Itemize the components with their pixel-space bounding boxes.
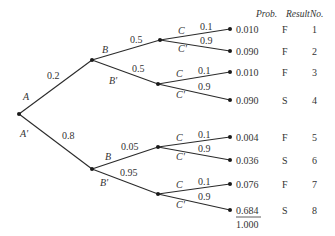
- prob-label: 0.9: [198, 81, 211, 92]
- result-value: F: [282, 179, 288, 190]
- node-level1: [90, 58, 94, 62]
- joint-prob: 0.090: [236, 46, 259, 57]
- tree-labels: A0.2A'0.8B0.5B'0.5B0.05B'0.95C0.1C'0.9C0…: [19, 21, 213, 209]
- leaf-node: [228, 158, 232, 162]
- joint-prob: 0.684: [236, 205, 259, 216]
- joint-prob: 0.010: [236, 24, 259, 35]
- edge-level3: [158, 194, 230, 210]
- prob-label: 0.9: [198, 143, 211, 154]
- joint-prob: 0.090: [236, 95, 259, 106]
- edge-level3: [158, 147, 230, 160]
- outcome-number: 4: [312, 95, 317, 106]
- outcome-number: 5: [312, 132, 317, 143]
- event-label: C': [176, 151, 186, 162]
- node-level1: [90, 167, 94, 171]
- result-value: S: [282, 205, 288, 216]
- joint-prob: 0.036: [236, 155, 259, 166]
- event-label: B: [102, 44, 108, 55]
- outcome-table: Prob. Result No. 0.010F10.090F20.010F30.…: [236, 9, 323, 230]
- outcome-number: 1: [312, 24, 317, 35]
- header-prob: Prob.: [255, 9, 277, 19]
- node-level2: [156, 192, 160, 196]
- prob-label: 0.2: [47, 70, 60, 81]
- leaf-node: [228, 98, 232, 102]
- edge-level2: [92, 60, 158, 84]
- total-prob: 1.000: [236, 219, 259, 230]
- prob-label: 0.5: [132, 63, 145, 74]
- event-label: A': [19, 128, 29, 139]
- event-label: C': [176, 199, 186, 210]
- result-value: S: [282, 155, 288, 166]
- event-label: B': [109, 75, 118, 86]
- outcome-number: 6: [312, 155, 317, 166]
- node-level2: [158, 38, 162, 42]
- result-value: F: [282, 67, 288, 78]
- edge-level3: [160, 40, 230, 51]
- result-value: F: [282, 24, 288, 35]
- leaf-node: [228, 49, 232, 53]
- event-label: A: [22, 91, 30, 102]
- result-value: S: [282, 95, 288, 106]
- prob-label: 0.95: [120, 167, 138, 178]
- root-node: [17, 112, 21, 116]
- edge-level3: [158, 84, 230, 100]
- header-result: Result: [285, 9, 310, 19]
- joint-prob: 0.010: [236, 67, 259, 78]
- header-no: No.: [309, 9, 323, 19]
- event-label: B: [105, 151, 111, 162]
- result-value: F: [282, 46, 288, 57]
- prob-label: 0.5: [130, 34, 143, 45]
- prob-label: 0.8: [62, 130, 75, 141]
- event-label: B': [100, 177, 109, 188]
- result-value: F: [282, 132, 288, 143]
- prob-label: 0.9: [198, 191, 211, 202]
- prob-label: 0.9: [200, 35, 213, 46]
- edge-level3: [158, 72, 230, 84]
- outcome-number: 7: [312, 179, 317, 190]
- outcome-number: 3: [312, 67, 317, 78]
- leaf-node: [228, 135, 232, 139]
- event-label: C: [176, 179, 183, 190]
- edge-level3: [158, 137, 230, 147]
- event-label: C: [176, 68, 183, 79]
- prob-label: 0.1: [200, 21, 213, 32]
- leaf-node: [228, 70, 232, 74]
- leaf-node: [228, 208, 232, 212]
- joint-prob: 0.076: [236, 179, 259, 190]
- outcome-number: 2: [312, 46, 317, 57]
- outcome-number: 8: [312, 205, 317, 216]
- event-label: C': [176, 89, 186, 100]
- event-label: C': [178, 43, 188, 54]
- node-level2: [156, 145, 160, 149]
- joint-prob: 0.004: [236, 132, 259, 143]
- prob-label: 0.05: [121, 141, 139, 152]
- prob-label: 0.1: [198, 129, 211, 140]
- prob-label: 0.1: [198, 65, 211, 76]
- edge-level1: [19, 114, 92, 169]
- node-level2: [156, 82, 160, 86]
- probability-tree: A0.2A'0.8B0.5B'0.5B0.05B'0.95C0.1C'0.9C0…: [0, 0, 335, 236]
- leaf-node: [228, 182, 232, 186]
- edge-level1: [19, 60, 92, 114]
- event-label: C: [176, 132, 183, 143]
- leaf-node: [228, 27, 232, 31]
- edge-level3: [160, 29, 230, 40]
- event-label: C: [178, 25, 185, 36]
- edge-level3: [158, 184, 230, 194]
- prob-label: 0.1: [198, 176, 211, 187]
